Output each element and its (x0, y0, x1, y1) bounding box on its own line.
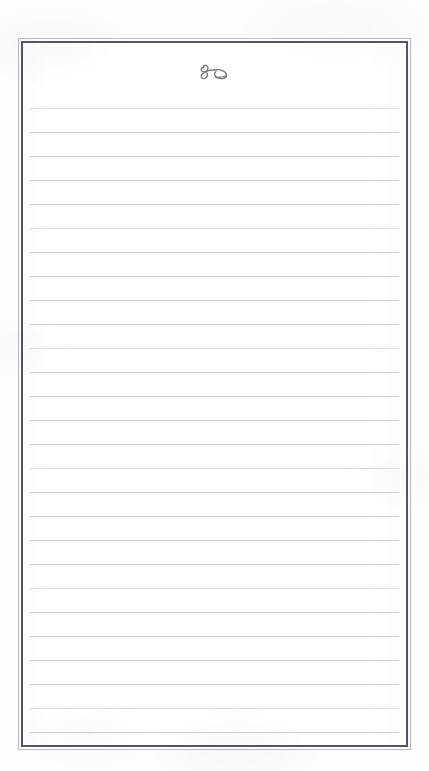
paper-sheet (18, 38, 411, 750)
rule-line (30, 396, 399, 397)
rule-line (30, 588, 399, 589)
rule-line (30, 324, 399, 325)
scanned-page-root (0, 0, 429, 771)
rule-line (30, 564, 399, 565)
rule-line (30, 636, 399, 637)
rule-line (30, 300, 399, 301)
rule-line (30, 228, 399, 229)
rule-line (30, 492, 399, 493)
rule-line (30, 684, 399, 685)
rule-line (30, 132, 399, 133)
ruled-lines[interactable] (30, 98, 399, 740)
rule-line (30, 108, 399, 109)
rule-line (30, 612, 399, 613)
rule-line (30, 156, 399, 157)
rule-line (30, 180, 399, 181)
rule-line (30, 660, 399, 661)
rule-line (30, 276, 399, 277)
rule-line (30, 252, 399, 253)
rule-line (30, 468, 399, 469)
rule-line (30, 516, 399, 517)
rule-line (30, 348, 399, 349)
rule-line (30, 708, 399, 709)
hand-drawn-flourish-ornament (198, 62, 232, 84)
rule-line (30, 540, 399, 541)
page-header (30, 47, 399, 98)
writing-area[interactable] (30, 47, 399, 740)
rule-line (30, 732, 399, 733)
rule-line (30, 204, 399, 205)
rule-line (30, 420, 399, 421)
rule-line (30, 372, 399, 373)
rule-line (30, 444, 399, 445)
